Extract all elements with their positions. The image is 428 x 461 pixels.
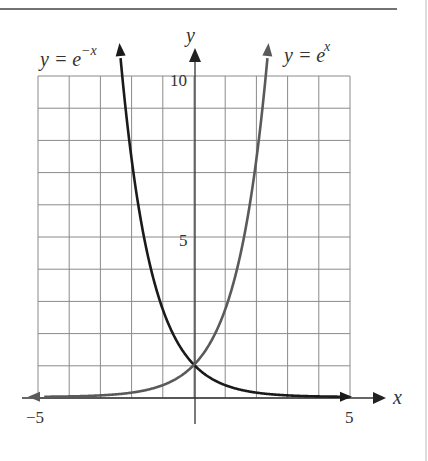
grid <box>38 76 350 398</box>
y-tick-5: 5 <box>179 231 188 250</box>
svg-text:−x: −x <box>81 43 97 58</box>
curve-e-neg-x-arrow-icon <box>116 43 126 56</box>
y-tick-10: 10 <box>170 71 187 90</box>
y-axis-arrow-icon <box>189 48 201 62</box>
label-e-x: y = e x <box>282 39 331 67</box>
x-tick-min: −5 <box>26 408 44 427</box>
svg-text:y = e: y = e <box>38 48 81 71</box>
curve-e-x-arrow-icon <box>262 43 272 56</box>
x-axis <box>22 392 386 404</box>
x-tick-max: 5 <box>345 408 354 427</box>
svg-text:x: x <box>323 39 331 54</box>
y-axis-label: y <box>184 24 195 47</box>
x-axis-arrow-icon <box>373 392 386 404</box>
label-e-neg-x: y = e −x <box>38 43 97 71</box>
x-axis-label: x <box>392 386 402 408</box>
exponential-chart: x y −5 5 5 10 y = e −x y = e x <box>0 0 428 461</box>
curve-e-neg-x <box>121 58 344 397</box>
curve-e-x <box>44 58 267 397</box>
curve-e-x-left-arrow-icon <box>28 392 40 402</box>
svg-text:y = e: y = e <box>282 44 325 67</box>
